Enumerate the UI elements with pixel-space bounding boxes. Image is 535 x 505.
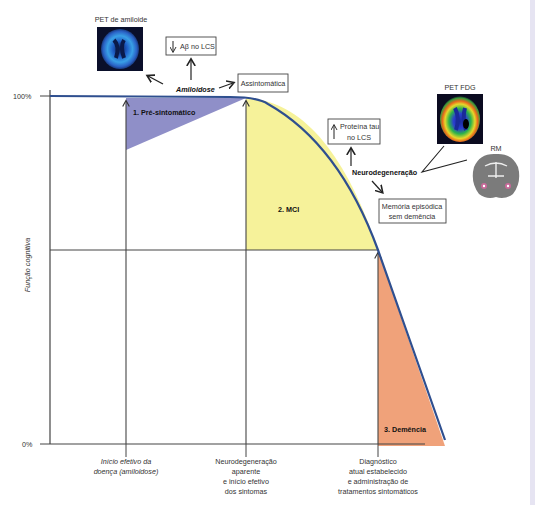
- stage-label-presymptomatic: 1. Pré-sintomático: [133, 108, 196, 117]
- x-label-diagnosis: Diagnóstico atual estabelecido e adminis…: [338, 457, 418, 496]
- mri-image: [473, 154, 519, 198]
- svg-text:dos sintomas: dos sintomas: [225, 487, 268, 496]
- episodic-memory-box: Memória episódica sem demência: [379, 199, 446, 223]
- asymptomatic-box: Assintomática: [238, 74, 288, 92]
- stage-label-dementia: 3. Demência: [384, 425, 427, 434]
- svg-text:Neurodegeneração: Neurodegeneração: [215, 457, 277, 466]
- y-axis-label: Função cognitiva: [23, 238, 32, 292]
- y-tick-label-100: 100%: [13, 92, 32, 101]
- svg-text:aparente: aparente: [232, 467, 260, 476]
- pet-fdg-label: PET FDG: [444, 83, 475, 92]
- svg-text:Início efetivo da: Início efetivo da: [101, 457, 151, 466]
- mri-label: RM: [490, 144, 501, 153]
- y-tick-label-0: 0%: [22, 440, 33, 449]
- svg-text:e início efetivo: e início efetivo: [223, 477, 269, 486]
- connector-to-imaging: [422, 146, 467, 172]
- x-label-disease-onset: Início efetivo da doença (amiloidose): [94, 457, 159, 476]
- csf-tau-box: Proteína tau no LCS: [328, 119, 380, 144]
- svg-text:Aβ no LCS: Aβ no LCS: [180, 42, 215, 51]
- csf-abeta-box: Aβ no LCS: [166, 37, 216, 55]
- svg-text:Assintomática: Assintomática: [241, 79, 286, 88]
- pet-amyloid-image: [97, 27, 143, 71]
- arrow-to-memory: [372, 181, 382, 192]
- amyloidosis-label: Amiloidose: [175, 85, 215, 94]
- stage-label-mci: 2. MCI: [278, 205, 299, 214]
- svg-text:Proteína tau: Proteína tau: [340, 122, 379, 131]
- arrow-to-asymptomatic: [219, 83, 233, 88]
- svg-text:doença (amiloidose): doença (amiloidose): [94, 467, 159, 476]
- x-label-symptom-onset: Neurodegeneração aparente e início efeti…: [215, 457, 277, 496]
- svg-text:Memória episódica: Memória episódica: [382, 202, 442, 211]
- svg-text:Diagnóstico: Diagnóstico: [359, 457, 397, 466]
- svg-text:tratamentos sintomáticos: tratamentos sintomáticos: [338, 487, 418, 496]
- neurodegeneration-label: Neurodegeneração: [352, 168, 418, 177]
- svg-text:sem demência: sem demência: [389, 212, 436, 221]
- stage-presymptomatic-area: [126, 98, 246, 150]
- svg-text:e administração de: e administração de: [348, 477, 409, 486]
- pet-fdg-image: [437, 94, 483, 144]
- svg-text:no LCS: no LCS: [347, 133, 371, 142]
- svg-text:atual estabelecido: atual estabelecido: [349, 467, 407, 476]
- diagram-canvas: 100% 0% Função cognitiva 1. Pré-sintomát…: [0, 0, 535, 505]
- arrow-to-pet-amyloid: [148, 76, 163, 84]
- pet-amyloid-label: PET de amiloide: [95, 15, 148, 24]
